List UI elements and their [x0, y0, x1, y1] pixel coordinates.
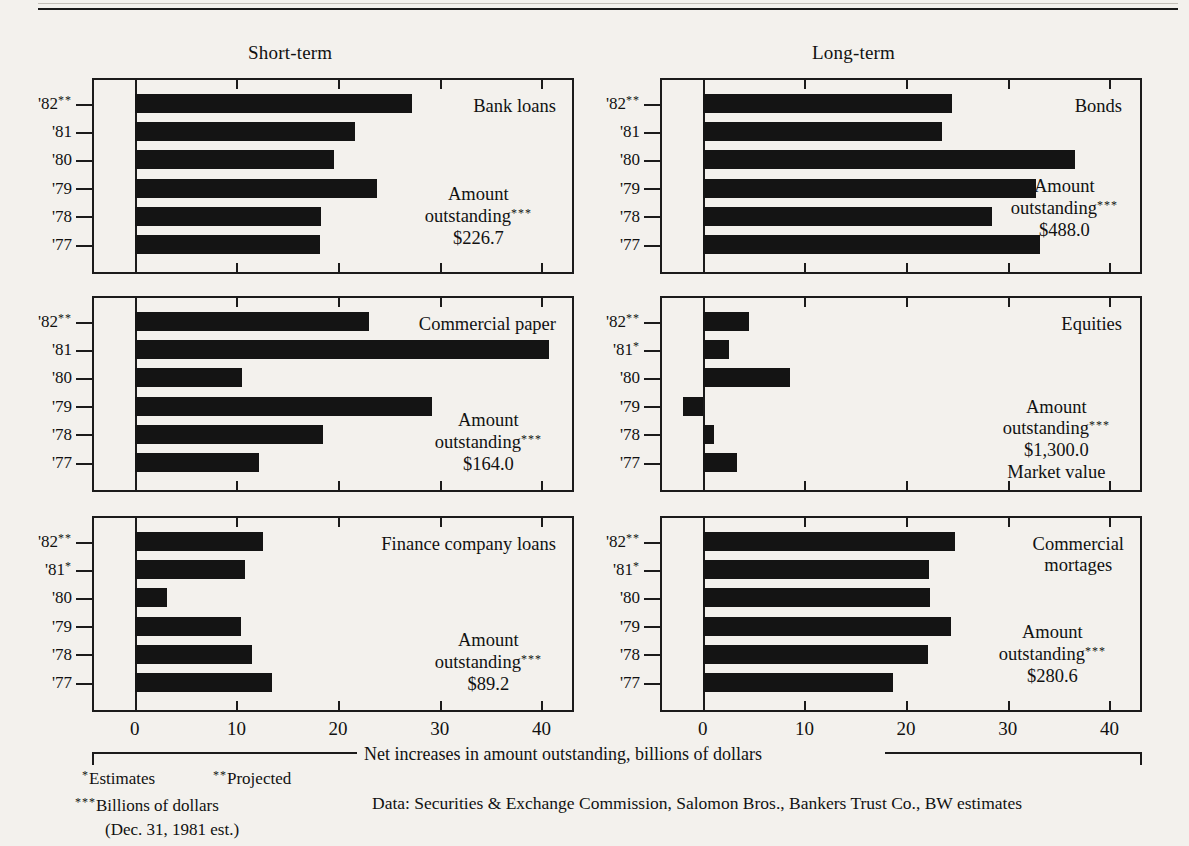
year-tick — [644, 188, 661, 190]
amount-value: $280.6 — [999, 666, 1106, 688]
year-tick — [76, 350, 93, 352]
x-tick-20-top — [906, 518, 908, 527]
outstanding-mark: *** — [521, 652, 542, 666]
year-tick — [76, 542, 93, 544]
x-tick-10-top — [804, 298, 806, 307]
panel-bank-loans: '82**'81'80'79'78'77Bank loansAmountouts… — [92, 78, 574, 274]
panel-finance-company-loans: '82**'81*'80'79'78'77Finance company loa… — [92, 516, 574, 712]
year-tick — [644, 406, 661, 408]
x-tick-30-top — [1008, 80, 1010, 89]
x-tick-30-top — [440, 80, 442, 89]
amount-outstanding-bonds: Amountoutstanding***$488.0 — [1011, 176, 1118, 242]
x-tick-30-top — [440, 518, 442, 527]
year-tick — [644, 434, 661, 436]
amount-outstanding-commercial-mortages: Amountoutstanding***$280.6 — [999, 622, 1106, 688]
x-tick-10-bottom — [804, 701, 806, 710]
plot-area: '82**'81*'80'79'78'77EquitiesAmountoutst… — [662, 298, 1140, 490]
year-tick — [644, 683, 661, 685]
year-label-80: '80 — [52, 150, 72, 170]
panel-commercial-mortages: '82**'81*'80'79'78'77Commercial mortages… — [660, 516, 1142, 712]
year-label-mark: * — [633, 559, 640, 573]
year-tick — [644, 378, 661, 380]
footnote-projected-label: Projected — [227, 769, 291, 788]
x-tick-20-bottom — [906, 481, 908, 490]
outstanding-label: outstanding*** — [1003, 418, 1110, 440]
series-title-commercial-mortages: Commercial mortages — [1033, 534, 1124, 575]
amount-note: Market value — [1003, 462, 1110, 484]
year-label-78: '78 — [620, 644, 640, 664]
series-title-equities: Equities — [1061, 314, 1122, 335]
year-tick — [644, 542, 661, 544]
outstanding-label: outstanding*** — [435, 652, 542, 674]
year-label-mark: ** — [626, 531, 640, 545]
bar — [135, 532, 263, 551]
bar — [135, 453, 259, 472]
year-tick — [76, 245, 93, 247]
year-label-77: '77 — [52, 453, 72, 473]
amount-label: Amount — [435, 630, 542, 652]
outstanding-label: outstanding*** — [1011, 198, 1118, 220]
outstanding-mark: *** — [1089, 418, 1110, 432]
x-tick-20-top — [906, 298, 908, 307]
caption-bracket-right — [885, 752, 1142, 765]
x-tick-20-bottom — [906, 701, 908, 710]
amount-outstanding-commercial-paper: Amountoutstanding***$164.0 — [435, 410, 542, 476]
top-rule — [38, 8, 1178, 10]
x-axis-label-40: 40 — [532, 718, 551, 740]
footnote-estimates: *Estimates — [82, 768, 155, 789]
x-tick-30-bottom — [1008, 263, 1010, 272]
plot-area: '82**'81*'80'79'78'77Finance company loa… — [94, 518, 572, 710]
outstanding-mark: *** — [1085, 644, 1106, 658]
x-axis-labels-left: 010203040 — [92, 718, 574, 744]
year-label-mark: * — [633, 339, 640, 353]
amount-label: Amount — [1003, 397, 1110, 419]
amount-outstanding-equities: Amountoutstanding***$1,300.0Market value — [1003, 397, 1110, 484]
bar — [135, 425, 323, 444]
x-tick-20-bottom — [338, 263, 340, 272]
bar — [703, 453, 738, 472]
year-tick — [76, 188, 93, 190]
x-tick-10-top — [804, 518, 806, 527]
bar — [703, 312, 750, 331]
x-tick-30-bottom — [1008, 701, 1010, 710]
year-label-79: '79 — [620, 616, 640, 636]
year-label-79: '79 — [52, 396, 72, 416]
panel-commercial-paper: '82**'81'80'79'78'77Commercial paperAmou… — [92, 296, 574, 492]
panel-equities: '82**'81*'80'79'78'77EquitiesAmountoutst… — [660, 296, 1142, 492]
year-tick — [76, 160, 93, 162]
year-label-80: '80 — [620, 150, 640, 170]
plot-area: '82**'81'80'79'78'77Bank loansAmountouts… — [94, 80, 572, 272]
year-label-80: '80 — [620, 368, 640, 388]
year-label-79: '79 — [52, 616, 72, 636]
year-label-78: '78 — [52, 644, 72, 664]
x-tick-30-top — [440, 298, 442, 307]
year-label-82: '82** — [38, 93, 72, 114]
x-tick-40-top — [541, 298, 543, 307]
footnote-billions: ***Billions of dollars — [75, 795, 219, 816]
bar — [135, 368, 243, 387]
year-label-81: '81 — [620, 122, 640, 142]
year-tick — [76, 104, 93, 106]
year-label-82: '82** — [38, 531, 72, 552]
x-tick-20-top — [906, 80, 908, 89]
footnote-projected-mark: ** — [213, 768, 227, 782]
bar — [135, 588, 168, 607]
x-tick-40-bottom — [541, 263, 543, 272]
footnote-billions-subnote: (Dec. 31, 1981 est.) — [105, 820, 239, 840]
year-label-mark: * — [65, 559, 72, 573]
year-tick — [644, 654, 661, 656]
year-label-78: '78 — [620, 424, 640, 444]
x-axis-label-30: 30 — [430, 718, 449, 740]
year-tick — [644, 598, 661, 600]
bar — [703, 645, 929, 664]
year-tick — [76, 322, 93, 324]
bar — [135, 340, 549, 359]
x-tick-30-bottom — [440, 481, 442, 490]
year-label-77: '77 — [52, 673, 72, 693]
amount-value: $1,300.0 — [1003, 440, 1110, 462]
x-tick-40-top — [541, 518, 543, 527]
bar — [703, 368, 790, 387]
year-label-80: '80 — [620, 588, 640, 608]
amount-outstanding-bank-loans: Amountoutstanding***$226.7 — [425, 184, 532, 250]
footnote-billions-mark: *** — [75, 795, 96, 809]
